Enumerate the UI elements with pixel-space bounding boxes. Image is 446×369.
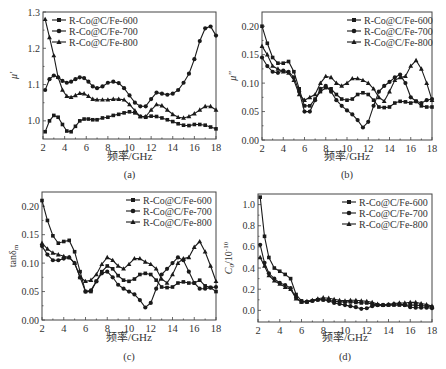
square-marker <box>182 123 186 127</box>
square-marker <box>281 61 285 65</box>
circle-marker <box>340 104 344 108</box>
circle-marker <box>176 88 180 92</box>
panel-caption: (c) <box>123 351 135 363</box>
legend-label: R-Co@C/Fe-800 <box>364 37 433 48</box>
square-marker <box>340 97 344 101</box>
square-marker <box>425 105 429 109</box>
circle-marker <box>149 301 153 305</box>
circle-marker <box>419 101 423 105</box>
circle-marker <box>371 104 375 108</box>
square-marker <box>149 114 153 118</box>
x-tick-label: 4 <box>61 323 67 334</box>
square-marker <box>171 285 175 289</box>
circle-marker <box>198 287 202 291</box>
series-r-co-c-fe-800 <box>258 255 435 308</box>
series-r-co-c-fe-600 <box>43 110 217 134</box>
square-marker <box>62 240 66 244</box>
triangle-marker <box>323 74 328 78</box>
y-tick-label: 0.05 <box>242 106 260 117</box>
circle-marker <box>302 109 306 113</box>
square-marker <box>43 130 47 134</box>
circle-marker <box>332 301 336 305</box>
x-tick-label: 4 <box>62 142 68 153</box>
x-tick-label: 6 <box>84 142 89 153</box>
square-marker <box>203 123 207 127</box>
square-marker <box>198 123 202 127</box>
square-marker <box>351 97 355 101</box>
y-tick-label: 1.1 <box>28 79 41 90</box>
square-marker <box>74 125 78 129</box>
circle-marker <box>370 304 374 308</box>
circle-marker <box>91 84 95 88</box>
square-marker <box>67 239 71 243</box>
square-marker <box>61 123 65 127</box>
circle-marker <box>313 98 317 102</box>
circle-marker <box>95 86 99 90</box>
circle-marker <box>83 289 87 293</box>
circle-marker <box>354 305 358 309</box>
circle-marker <box>47 77 51 81</box>
square-marker <box>111 114 115 118</box>
circle-marker <box>203 26 207 30</box>
square-marker <box>404 100 408 104</box>
x-tick-label: 6 <box>302 143 307 154</box>
circle-marker <box>425 98 429 102</box>
square-marker <box>347 200 351 204</box>
triangle-marker <box>260 44 265 48</box>
x-axis-label: 频率/GHz <box>106 330 152 343</box>
legend-label: R-Co@C/Fe-600 <box>359 197 428 208</box>
x-axis-label: 频率/GHz <box>322 330 368 343</box>
square-marker <box>69 130 73 134</box>
square-marker <box>48 119 52 123</box>
circle-marker <box>214 285 218 289</box>
square-marker <box>131 198 135 202</box>
square-marker <box>356 93 360 97</box>
circle-marker <box>187 72 191 76</box>
circle-marker <box>258 243 262 247</box>
circle-marker <box>403 81 407 85</box>
square-marker <box>51 234 55 238</box>
square-marker <box>111 267 115 271</box>
y-tick-label: 0.10 <box>242 78 260 89</box>
x-tick-label: 4 <box>277 325 283 336</box>
circle-marker <box>171 92 175 96</box>
x-tick-label: 18 <box>427 143 438 154</box>
legend: R-Co@C/Fe-600R-Co@C/Fe-700R-Co@C/Fe-800 <box>342 197 428 230</box>
circle-marker <box>352 29 357 34</box>
y-axis-label: tanδm <box>7 244 20 267</box>
square-marker <box>144 272 148 276</box>
circle-marker <box>192 281 196 285</box>
square-marker <box>273 266 277 270</box>
circle-marker <box>208 285 212 289</box>
circle-marker <box>198 39 202 43</box>
circle-marker <box>329 90 333 94</box>
square-marker <box>292 70 296 74</box>
circle-marker <box>334 98 338 102</box>
y-tick-label: 0.2 <box>243 284 256 295</box>
triangle-marker <box>208 263 213 267</box>
y-tick-label: 0.6 <box>243 241 256 252</box>
y-axis-label: μ' <box>8 71 19 80</box>
square-marker <box>267 256 271 260</box>
square-marker <box>166 118 170 122</box>
circle-marker <box>187 270 191 274</box>
square-marker <box>287 60 291 64</box>
circle-marker <box>377 90 381 94</box>
circle-marker <box>154 287 158 291</box>
square-marker <box>56 115 60 119</box>
triangle-marker <box>170 272 175 276</box>
circle-marker <box>337 302 341 306</box>
panel-caption: (a) <box>124 169 136 181</box>
triangle-marker <box>197 107 202 111</box>
circle-marker <box>214 33 218 37</box>
square-marker <box>160 285 164 289</box>
circle-marker <box>138 104 142 108</box>
square-marker <box>278 269 282 273</box>
square-marker <box>335 93 339 97</box>
legend-label: R-Co@C/Fe-700 <box>143 206 212 217</box>
square-marker <box>87 117 91 121</box>
triangle-marker <box>424 81 429 85</box>
circle-marker <box>408 305 412 309</box>
y-tick-label: 0.20 <box>242 21 260 32</box>
triangle-marker <box>105 255 110 259</box>
